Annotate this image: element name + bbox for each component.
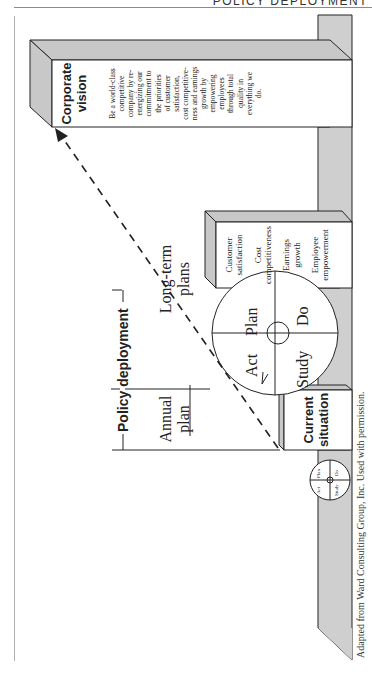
annual-plan-label: Annual plan: [157, 389, 194, 449]
current-situation-line-2: situation: [317, 390, 332, 450]
objective-text: growth: [292, 222, 302, 288]
objective-text: Earnings: [281, 222, 291, 288]
current-situation-title: Current situation: [302, 390, 332, 450]
corporate-vision-statement: Be a world-class competitive company by …: [108, 60, 263, 127]
corporate-vision-line-1: Corporate: [60, 60, 75, 127]
corporate-vision-line-2: vision: [75, 60, 90, 127]
objectives-box-top: [205, 211, 216, 288]
vision-line: commitment to: [144, 60, 153, 127]
pdca-small-plan-label: Plan: [316, 469, 322, 478]
pdca-do-label: Do: [294, 306, 312, 326]
objectives-list: Customer satisfaction Cost competitivene…: [224, 222, 331, 288]
arrowhead-icon: [55, 128, 68, 142]
objective-item: Employee empowerment: [310, 222, 331, 288]
pdca-small-act-label: Act: [316, 487, 322, 494]
policy-deployment-label: Policy deployment: [115, 308, 131, 432]
vision-line: the priorities: [154, 60, 163, 127]
vision-line: empowering: [208, 60, 217, 127]
current-situation-line-1: Current: [302, 390, 317, 450]
vision-line: everything we: [245, 60, 254, 127]
vision-line: through total: [226, 60, 235, 127]
vision-line: competitive: [117, 60, 126, 127]
objective-text: satisfaction: [234, 222, 244, 288]
vision-line: satisfaction,: [172, 60, 181, 127]
objective-text: Customer: [224, 222, 234, 288]
vision-line: of customer: [163, 60, 172, 127]
objective-item: Earnings growth: [281, 222, 302, 288]
vision-line: cost competitive-: [181, 60, 190, 127]
vision-line: growth by: [199, 60, 208, 127]
objective-text: empowerment: [320, 222, 330, 288]
corporate-vision-box-side: [30, 40, 352, 60]
long-term-line-2: plans: [175, 239, 193, 319]
vision-line: Be a world-class: [108, 60, 117, 127]
pdca-act-label: Act: [243, 354, 261, 377]
long-term-line-1: Long-term: [157, 239, 175, 319]
annual-plan-line-1: Annual: [157, 389, 175, 449]
objectives-box-side: [205, 211, 352, 222]
vision-line: company by re-: [126, 60, 135, 127]
policy-deployment-diagram: Policy deployment Annual plan Long-term …: [0, 0, 372, 674]
objective-text: competitiveness: [263, 222, 273, 288]
long-term-plans-label: Long-term plans: [157, 239, 194, 319]
objective-text: Cost: [253, 222, 263, 288]
vision-line: ness and earnings: [190, 60, 199, 127]
pdca-small-study-label: Study: [334, 484, 340, 496]
objective-text: Employee: [310, 222, 320, 288]
figure-caption: Adapted from Ward Consulting Group, Inc.…: [355, 392, 366, 658]
vision-line: quality in: [236, 60, 245, 127]
pdca-plan-label: Plan: [243, 308, 261, 336]
annual-plan-line-2: plan: [175, 389, 193, 449]
objective-item: Customer satisfaction: [224, 222, 245, 288]
vision-line: do.: [254, 60, 263, 127]
pdca-small-do-label: Do: [334, 470, 340, 476]
pdca-study-label: Study: [294, 351, 312, 388]
objective-item: Cost competitiveness: [253, 222, 274, 288]
vision-line: employees: [217, 60, 226, 127]
vision-line: energizing our: [135, 60, 144, 127]
corporate-vision-title: Corporate vision: [60, 60, 90, 127]
